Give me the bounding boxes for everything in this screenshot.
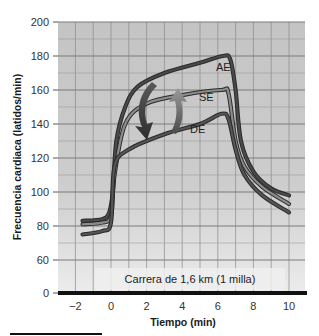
x-tick-label: 8 bbox=[250, 300, 256, 312]
curve-label-se: SE bbox=[199, 91, 214, 103]
y-tick-label: 140 bbox=[31, 118, 49, 130]
heart-rate-chart: 06080100120140160180200−20246810Tiempo (… bbox=[0, 0, 319, 336]
y-tick-label: 80 bbox=[37, 220, 49, 232]
x-tick-label: −2 bbox=[69, 300, 82, 312]
x-axis-title: Tiempo (min) bbox=[150, 316, 216, 328]
curve-label-ae: AE bbox=[216, 61, 231, 73]
y-tick-label: 180 bbox=[31, 50, 49, 62]
x-tick-label: 4 bbox=[179, 300, 185, 312]
annotation-label: Carrera de 1,6 km (1 milla) bbox=[125, 273, 256, 285]
x-tick-label: 0 bbox=[108, 300, 114, 312]
y-tick-label: 200 bbox=[31, 16, 49, 28]
y-axis-title: Frecuencia cardiaca (latidos/min) bbox=[11, 74, 23, 240]
curve-label-de: DE bbox=[190, 123, 205, 135]
bottom-rule bbox=[10, 333, 102, 335]
y-tick-label: 0 bbox=[43, 287, 49, 299]
x-tick-label: 10 bbox=[283, 300, 295, 312]
y-tick-label: 160 bbox=[31, 84, 49, 96]
x-tick-label: 2 bbox=[144, 300, 150, 312]
y-tick-label: 60 bbox=[37, 254, 49, 266]
y-tick-label: 100 bbox=[31, 186, 49, 198]
x-tick-label: 6 bbox=[215, 300, 221, 312]
annotation-box: Carrera de 1,6 km (1 milla) bbox=[95, 268, 285, 290]
x-axis-line bbox=[58, 291, 307, 295]
y-tick-label: 120 bbox=[31, 152, 49, 164]
